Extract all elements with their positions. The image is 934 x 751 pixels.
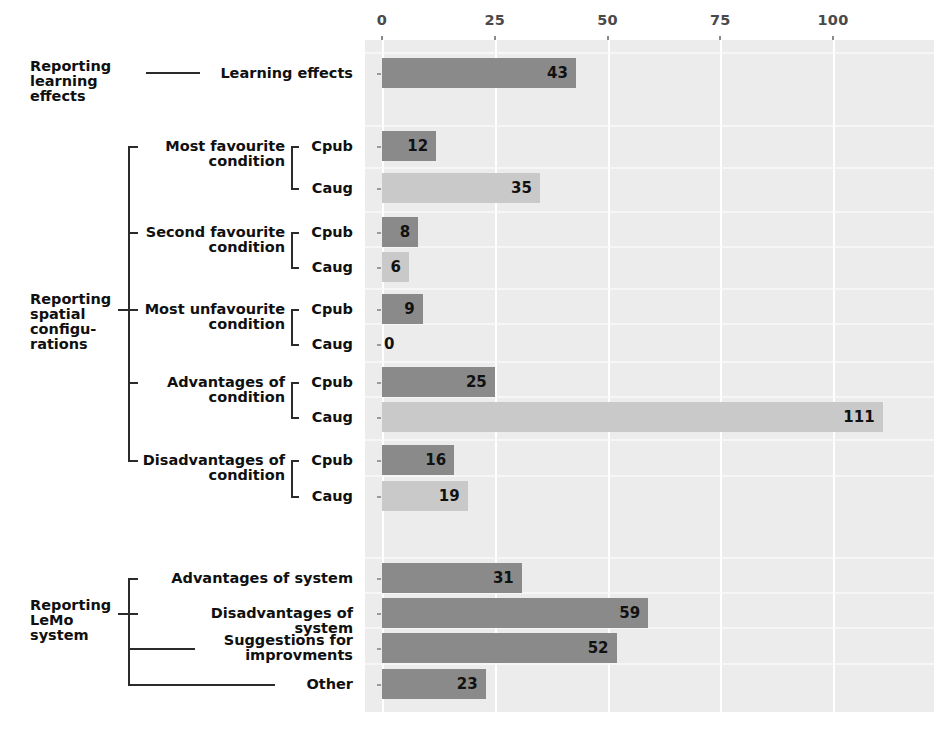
bar-value-most-unfav-cpub: 9 [382,294,415,324]
subgroup-label-disadvantages-condition: Disadvantages of condition [110,453,285,483]
row-label-second-fav-cpub: Cpub [300,225,353,240]
x-gridline [833,40,835,712]
row-separator [365,557,934,559]
row-tick [377,460,381,462]
row-tick [377,146,381,148]
row-separator [365,475,934,477]
bracket-most-favourite-pair [291,146,293,188]
row-tick [377,417,381,419]
chart-root: 0255075100 431235869025111161931595223 L… [0,0,934,751]
bracket-spatial-tick-0 [128,232,138,234]
row-label-most-fav-caug: Caug [300,181,353,196]
bracket-second-favourite-pair-top [291,232,299,234]
bracket-most-unfavourite-pair-top [291,309,299,311]
row-separator [365,439,934,441]
bar-value-learning-effects: 43 [382,58,568,88]
bracket-advantages-condition-pair-top [291,382,299,384]
row-tick [377,613,381,615]
row-tick [377,496,381,498]
row-label-most-fav-cpub: Cpub [300,139,353,154]
x-tick-label: 25 [484,12,505,28]
row-label-adv-system: Advantages of system [150,571,353,586]
bar-value-second-fav-cpub: 8 [382,217,410,247]
row-separator [365,323,934,325]
row-label-disadv-cond-cpub: Cpub [300,453,353,468]
bracket-spatial-outer [128,146,130,460]
row-tick [377,382,381,384]
bracket-second-favourite-pair-bottom [291,267,299,269]
x-tick-label: 50 [597,12,618,28]
group-label-spatial: Reporting spatial configu- rations [30,292,140,352]
row-tick [377,267,381,269]
bar-value-most-unfav-caug: 0 [384,329,394,359]
bracket-advantages-condition-pair [291,382,293,417]
x-tick-label: 0 [377,12,387,28]
connector-other [128,684,275,686]
subgroup-label-most-favourite: Most favourite condition [110,139,285,169]
row-separator [365,663,934,665]
subgroup-label-second-favourite: Second favourite condition [110,225,285,255]
bracket-most-unfavourite-pair-bottom [291,344,299,346]
bracket-second-favourite-pair [291,232,293,267]
bracket-disadvantages-condition-pair-top [291,460,299,462]
bracket-lemo-stem [118,613,138,615]
row-tick [377,648,381,650]
row-separator [365,246,934,248]
connector-learning-effects [146,72,200,74]
bracket-spatial-outer-bottom [128,460,138,462]
bar-value-most-fav-cpub: 12 [382,131,428,161]
row-label-adv-cond-cpub: Cpub [300,375,353,390]
row-separator [365,52,934,54]
bracket-lemo-outer [128,578,130,684]
connector-suggestions [128,648,195,650]
bar-value-other: 23 [382,669,478,699]
x-gridline [720,40,722,712]
row-separator [365,361,934,363]
x-axis: 0255075100 [0,0,934,40]
row-separator [365,211,934,213]
row-tick [377,232,381,234]
bracket-spatial-stem [118,309,138,311]
bracket-advantages-condition-pair-bottom [291,417,299,419]
row-tick [377,578,381,580]
row-tick [377,684,381,686]
group-label-learning: Reporting learning effects [30,59,140,104]
row-separator [365,288,934,290]
bar-value-disadv-system: 59 [382,598,640,628]
row-label-second-fav-caug: Caug [300,260,353,275]
bar-value-second-fav-caug: 6 [382,252,401,282]
bracket-most-unfavourite-pair [291,309,293,344]
x-tick-label: 100 [818,12,849,28]
row-tick [377,188,381,190]
bracket-most-favourite-pair-bottom [291,188,299,190]
row-tick [377,73,381,75]
row-tick [377,309,381,311]
bracket-disadvantages-condition-pair [291,460,293,496]
bar-value-adv-cond-caug: 111 [382,402,875,432]
bar-value-disadv-cond-caug: 19 [382,481,460,511]
bracket-lemo-outer-top [128,578,138,580]
bar-value-suggestions: 52 [382,633,609,663]
row-tick [377,344,381,346]
bar-value-adv-system: 31 [382,563,514,593]
bracket-spatial-tick-2 [128,382,138,384]
x-tick-label: 75 [710,12,731,28]
bar-value-most-fav-caug: 35 [382,173,532,203]
row-label-most-unfav-cpub: Cpub [300,302,353,317]
subgroup-label-advantages-condition: Advantages of condition [110,375,285,405]
bar-value-adv-cond-cpub: 25 [382,367,487,397]
bar-value-disadv-cond-cpub: 16 [382,445,446,475]
row-label-adv-cond-caug: Caug [300,410,353,425]
row-separator [365,125,934,127]
row-label-most-unfav-caug: Caug [300,337,353,352]
group-label-lemo: Reporting LeMo system [30,598,140,643]
bracket-disadvantages-condition-pair-bottom [291,496,299,498]
row-label-disadv-cond-caug: Caug [300,489,353,504]
bracket-spatial-outer-top [128,146,138,148]
row-separator [365,167,934,169]
row-label-learning-effects: Learning effects [205,66,353,81]
plot-area: 431235869025111161931595223 [365,40,934,712]
bracket-most-favourite-pair-top [291,146,299,148]
